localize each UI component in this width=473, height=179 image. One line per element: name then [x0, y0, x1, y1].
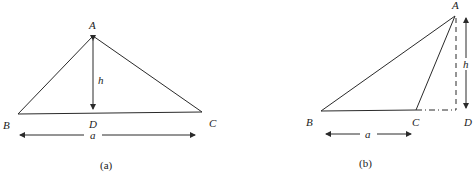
figure-a: A B C D h a (a) — [3, 19, 217, 172]
vertex-label-b: B — [3, 119, 10, 131]
figure-b: A B C D h a (b) — [306, 0, 472, 170]
triangle-diagrams: A B C D h a (a) A B C D h a (b) — [0, 0, 473, 179]
vertex-label-c: C — [209, 117, 217, 129]
caption-a: (a) — [100, 159, 113, 172]
vertex-label-d: D — [463, 116, 472, 128]
vertex-label-a: A — [451, 0, 459, 11]
base-label: a — [90, 129, 96, 141]
height-label: h — [98, 74, 104, 86]
triangle-abc-a — [18, 36, 202, 114]
vertex-label-b: B — [306, 116, 313, 128]
caption-b: (b) — [359, 157, 372, 170]
vertex-label-a: A — [88, 19, 96, 31]
vertex-label-c: C — [412, 116, 420, 128]
base-label: a — [365, 128, 371, 140]
height-label: h — [463, 58, 469, 70]
triangle-abc-b — [321, 16, 455, 111]
